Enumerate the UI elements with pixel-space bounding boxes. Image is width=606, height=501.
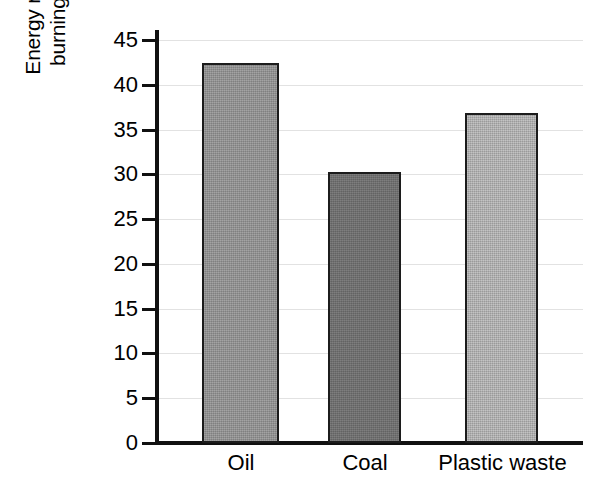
bar-plastic-waste	[465, 113, 538, 443]
x-axis-category-label: Coal	[320, 452, 410, 474]
gridline	[159, 40, 583, 41]
y-axis-title-line-2: burning 1 kg (MJ)	[46, 0, 71, 66]
y-axis-title: Energy released by burning 1 kg (MJ)	[18, 0, 74, 151]
y-axis-title-line-1: Energy released by	[21, 0, 46, 75]
bar-coal	[328, 172, 401, 443]
y-axis-tick-label: 30	[92, 163, 138, 185]
y-axis-tick-label: 20	[92, 253, 138, 275]
y-axis-tick-label: 45	[92, 29, 138, 51]
y-axis-tick-label: 5	[92, 387, 138, 409]
bar-chart-figure: Energy released by burning 1 kg (MJ) 454…	[0, 0, 606, 501]
y-axis-line	[155, 30, 159, 445]
y-axis-tick-label: 0	[92, 432, 138, 454]
x-axis-category-label: Oil	[196, 452, 286, 474]
y-axis-tick-label: 25	[92, 208, 138, 230]
y-axis-tick-label: 10	[92, 342, 138, 364]
y-axis-tick-label: 35	[92, 119, 138, 141]
x-axis-category-label: Plastic waste	[430, 452, 575, 474]
y-axis-tick-label: 15	[92, 298, 138, 320]
y-axis-tick-label: 40	[92, 74, 138, 96]
bar-oil	[202, 63, 279, 443]
